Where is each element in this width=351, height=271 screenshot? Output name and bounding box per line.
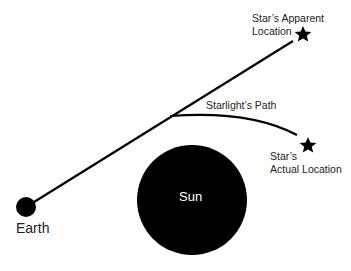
actual-label-line1: Star’s bbox=[270, 150, 342, 163]
actual-label-line2: Actual Location bbox=[270, 163, 342, 176]
earth-label: Earth bbox=[16, 220, 49, 236]
starlight-path-label: Starlight’s Path bbox=[206, 99, 276, 112]
apparent-label-line1: Star’s Apparent bbox=[252, 12, 324, 25]
sun-label: Sun bbox=[179, 189, 202, 204]
apparent-label-line2: Location bbox=[252, 25, 324, 38]
starlight-path bbox=[170, 115, 297, 135]
apparent-location-label: Star’s Apparent Location bbox=[252, 12, 324, 38]
earth bbox=[16, 197, 36, 217]
diagram-canvas bbox=[0, 0, 351, 271]
actual-location-label: Star’s Actual Location bbox=[270, 150, 342, 176]
